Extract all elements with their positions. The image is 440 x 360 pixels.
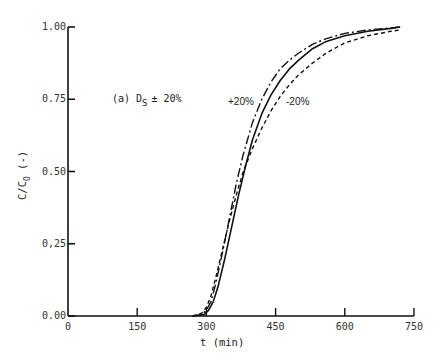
series-dashed-line	[193, 30, 401, 316]
y-axis-title-unit: (-)	[16, 151, 28, 170]
x-tick-label: 150	[128, 321, 146, 332]
annotation-suffix: ± 20%	[152, 93, 182, 104]
breakthrough-curve-chart: 0.000,250.500.751.00 0150300450600750 t …	[0, 0, 440, 360]
annotation-sub: S	[142, 98, 147, 108]
x-tick-label: 750	[405, 321, 423, 332]
series-dash-dot-line	[193, 27, 401, 316]
panel-annotation: (a) DS± 20%	[112, 93, 182, 108]
y-tick-label: 0.00	[42, 310, 66, 321]
y-tick-label: 0.50	[42, 166, 66, 177]
y-ticks: 0.000,250.500.751.00	[42, 21, 75, 321]
x-tick-label: 450	[267, 321, 285, 332]
x-tick-label: 600	[336, 321, 354, 332]
axes	[68, 27, 414, 316]
svg-text:C/CO (-): C/CO (-)	[16, 151, 32, 200]
curve-label-plus20: +20%	[228, 96, 254, 107]
y-tick-label: 0.75	[42, 93, 66, 104]
series-solid-line	[193, 27, 401, 316]
x-tick-label: 300	[197, 321, 215, 332]
y-tick-label: 0,25	[42, 238, 66, 249]
x-tick-label: 0	[65, 321, 71, 332]
y-axis-title: C/CO (-)	[16, 151, 32, 200]
curve-label-minus20: -20%	[286, 96, 309, 107]
annotation-main: (a) D	[112, 93, 142, 104]
series-lines	[193, 27, 401, 316]
y-tick-label: 1.00	[42, 21, 66, 32]
y-axis-title-main: C/C	[16, 181, 28, 200]
x-axis-title: t (min)	[200, 336, 244, 348]
x-ticks: 0150300450600750	[65, 308, 423, 332]
